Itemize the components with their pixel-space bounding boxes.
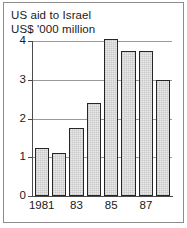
bar xyxy=(35,148,49,196)
chart-subtitle: US$ '000 million xyxy=(11,22,171,36)
page-title: US aid to Israel xyxy=(11,8,171,22)
bar xyxy=(121,51,135,196)
y-axis-tick-label: 2 xyxy=(6,113,26,124)
bar xyxy=(87,103,101,196)
x-axis-line xyxy=(32,196,173,197)
y-axis-tick-label: 3 xyxy=(6,74,26,85)
plot-area xyxy=(33,41,172,196)
bar xyxy=(139,51,153,196)
y-axis-tick xyxy=(28,196,33,197)
y-axis-tick-label: 1 xyxy=(6,151,26,162)
x-axis-tick-label: 87 xyxy=(126,199,166,211)
gridline xyxy=(33,41,172,42)
y-axis-tick-label: 4 xyxy=(6,35,26,46)
chart-figure: US aid to Israel US$ '000 million 01234 … xyxy=(0,0,187,228)
bar xyxy=(52,153,66,196)
bar xyxy=(104,39,118,196)
chart-title-block: US aid to Israel US$ '000 million xyxy=(11,8,171,36)
bar xyxy=(69,128,83,196)
bar xyxy=(156,80,170,196)
